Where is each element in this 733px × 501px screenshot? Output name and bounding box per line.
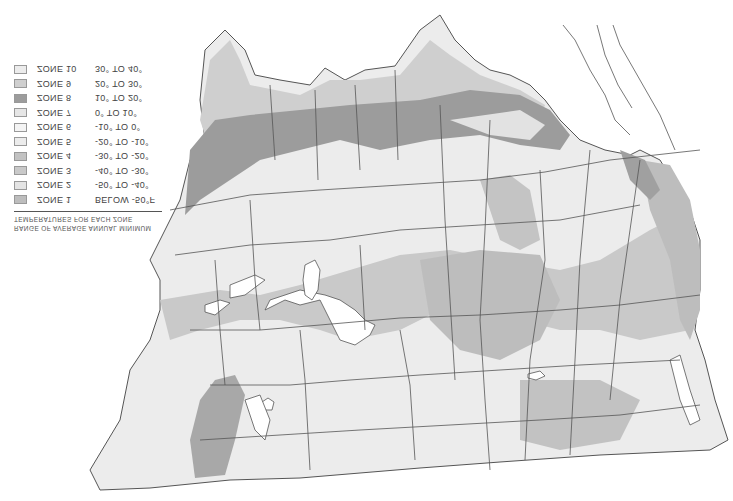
legend-row-zone-3: ZONE 3-40° TO -30°	[14, 164, 164, 179]
legend-row-zone-5: ZONE 5-20° TO -10°	[14, 135, 164, 150]
zone-range: -20° TO -10°	[95, 137, 157, 147]
zone-swatch	[14, 152, 27, 161]
legend-row-zone-10: ZONE 1030° TO 40°	[14, 62, 164, 77]
baja-california-outline	[563, 25, 675, 150]
zone-range: -50° TO -40°	[95, 180, 157, 190]
zone-swatch	[14, 166, 27, 175]
zone-name: ZONE 3	[37, 166, 95, 176]
legend-row-zone-1: ZONE 1BELOW -50°F	[14, 193, 164, 208]
zone-name: ZONE 7	[37, 108, 95, 118]
zone-swatch	[14, 65, 27, 74]
zone-swatch	[14, 195, 27, 204]
zone-range: 20° TO 30°	[95, 79, 157, 89]
legend-row-zone-4: ZONE 4-30° TO -20°	[14, 149, 164, 164]
legend-row-zone-8: ZONE 810° TO 20°	[14, 91, 164, 106]
legend-row-zone-9: ZONE 920° TO 30°	[14, 77, 164, 92]
zone-name: ZONE 10	[37, 64, 95, 74]
legend-rows: ZONE 1BELOW -50°F ZONE 2-50° TO -40° ZON…	[14, 62, 164, 207]
zone-swatch	[14, 181, 27, 190]
zone-name: ZONE 1	[37, 195, 95, 205]
zone-range: -40° TO -30°	[95, 166, 157, 176]
zone-range: -30° TO -20°	[95, 151, 157, 161]
legend-header-line2: TEMPERATURES FOR EACH ZONE	[14, 215, 164, 224]
zone-swatch	[14, 137, 27, 146]
zone-legend: RANGE OF AVERAGE ANNUAL MINIMUM TEMPERAT…	[14, 62, 164, 233]
legend-row-zone-7: ZONE 70° TO 10°	[14, 106, 164, 121]
zone-name: ZONE 8	[37, 93, 95, 103]
zone-swatch	[14, 123, 27, 132]
zone-name: ZONE 9	[37, 79, 95, 89]
zone-name: ZONE 6	[37, 122, 95, 132]
zone-range: 10° TO 20°	[95, 93, 157, 103]
zone-name: ZONE 5	[37, 137, 95, 147]
zone-range: BELOW -50°F	[95, 195, 157, 205]
zone-swatch	[14, 108, 27, 117]
zone-range: 30° TO 40°	[95, 64, 157, 74]
legend-header-line1: RANGE OF AVERAGE ANNUAL MINIMUM	[14, 224, 164, 233]
legend-row-zone-2: ZONE 2-50° TO -40°	[14, 178, 164, 193]
legend-row-zone-6: ZONE 6-10° TO 0°	[14, 120, 164, 135]
legend-header: RANGE OF AVERAGE ANNUAL MINIMUM TEMPERAT…	[14, 215, 164, 233]
zone-swatch	[14, 79, 27, 88]
legend-divider	[14, 211, 162, 212]
zone-name: ZONE 4	[37, 151, 95, 161]
zone-range: 0° TO 10°	[95, 108, 157, 118]
zone-swatch	[14, 94, 27, 103]
zone-range: -10° TO 0°	[95, 122, 157, 132]
zone-name: ZONE 2	[37, 180, 95, 190]
